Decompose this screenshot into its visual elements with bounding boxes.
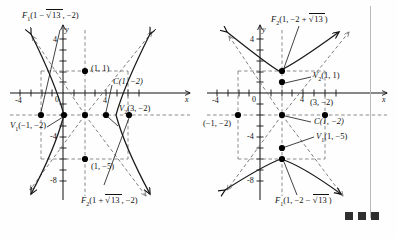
focus-2-marker: [279, 68, 285, 74]
right-y-tick-label--8: -8: [247, 177, 254, 185]
right-graph-panel: -4 4 4 -4 -8 0 x y F2(1, −2 + √13) V2(1,…: [199, 0, 398, 239]
left-y-tick-label--8: -8: [50, 177, 57, 185]
right-center-label: C(1, −2): [314, 117, 344, 126]
right-guide-dashes: [207, 30, 387, 196]
left-point-1-1-label: (1, 1): [91, 64, 109, 73]
focus-1-marker: [38, 112, 44, 118]
point-minus1-minus2-marker: [235, 112, 241, 118]
vertex-2-marker: [279, 79, 285, 85]
right-point-minus1-minus2-label: (−1, −2): [203, 119, 231, 128]
right-axes: [207, 25, 387, 200]
left-guide-dashes: [10, 30, 190, 196]
right-y-tick-label-4: 4: [250, 36, 254, 44]
left-x-tick-label--4: -4: [15, 97, 22, 105]
right-x-axis-label: x: [382, 95, 386, 104]
swatch-2: [358, 212, 366, 220]
right-y-tick-label--4: -4: [247, 133, 254, 141]
focus-1-marker: [279, 156, 285, 162]
vertex-1-marker: [279, 145, 285, 151]
left-origin-label: 0: [55, 96, 59, 104]
left-center-label: C(1, −2): [113, 77, 143, 86]
left-axes: [10, 25, 190, 200]
center-marker: [82, 112, 88, 118]
right-leader-lines: [284, 26, 314, 195]
left-vertex-2-label: V2(3, −2): [119, 104, 150, 115]
panel-divider: [370, 6, 371, 218]
left-focus-2-label: F2(1 + √13, −2): [81, 196, 138, 207]
center-marker: [279, 112, 285, 118]
right-focus-1-label: F1(1, −2 − √13): [275, 196, 332, 207]
swatch-1: [345, 212, 353, 220]
left-vertex-1-label: V1(−1, −2): [10, 121, 46, 132]
hyperbola-figure: -4 4 4 -4 -8 0 x y F1(1 − √13, −2) (1, 1…: [0, 0, 398, 239]
left-y-tick-label-4: 4: [53, 36, 57, 44]
left-y-tick-label--4: -4: [50, 133, 57, 141]
point-1-1-marker: [82, 68, 88, 74]
right-focus-2-label: F2(1, −2 + √13): [271, 15, 328, 26]
right-point-3-minus2-label: (3, −2): [310, 98, 333, 107]
left-x-tick-label-4: 4: [103, 97, 107, 105]
right-x-tick-label--4: -4: [212, 97, 219, 105]
left-graph-panel: -4 4 4 -4 -8 0 x y F1(1 − √13, −2) (1, 1…: [0, 0, 199, 239]
left-focus-1-label: F1(1 − √13, −2): [22, 11, 79, 22]
swatch-3: [371, 212, 379, 220]
right-vertex-1-label: V1(1, −5): [316, 132, 347, 143]
right-origin-label: 0: [252, 96, 256, 104]
color-swatches: [345, 212, 379, 220]
right-vertex-2-label: V2(1, 1): [313, 71, 340, 82]
vertex-1-marker: [61, 112, 67, 118]
left-x-axis-label: x: [185, 95, 189, 104]
point-1-minus5-marker: [82, 156, 88, 162]
right-y-axis-label: y: [262, 25, 266, 34]
left-y-axis-label: y: [65, 25, 69, 34]
left-point-1-minus5-label: (1, −5): [91, 162, 114, 171]
right-x-tick-label-4: 4: [300, 96, 304, 104]
